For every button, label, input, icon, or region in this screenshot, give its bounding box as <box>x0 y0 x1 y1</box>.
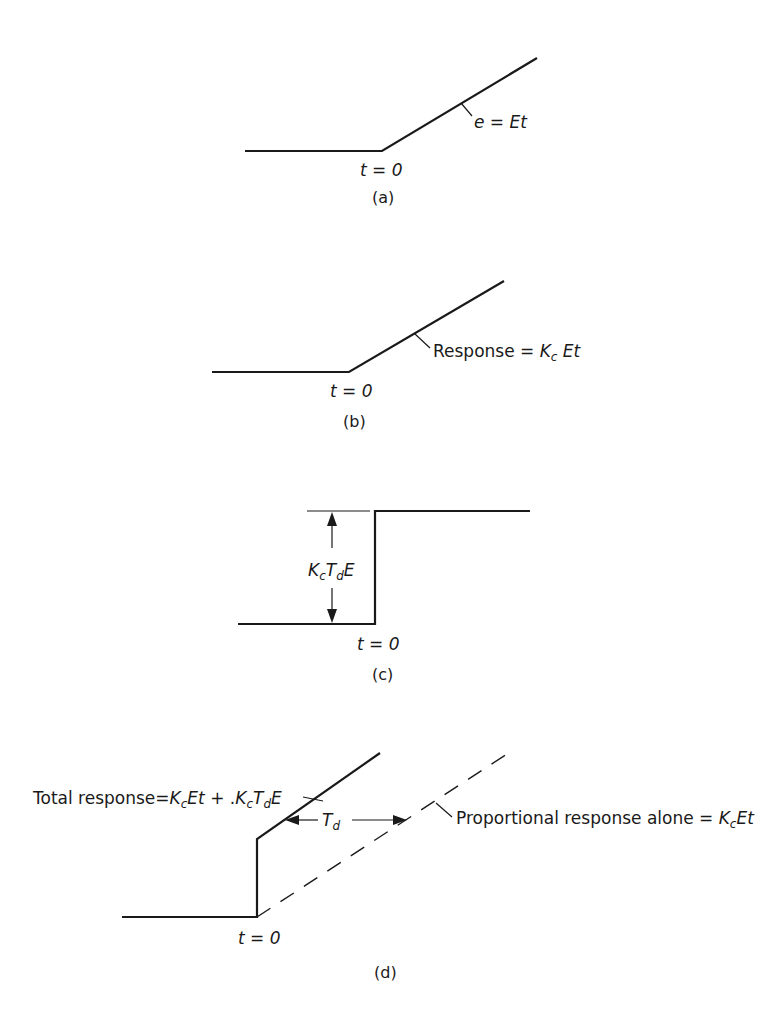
label-leader <box>415 334 430 348</box>
panel-a: e = Et t = 0 (a) <box>245 58 537 207</box>
label-proportional-response-alone: Proportional response alone = KcEt <box>456 808 755 831</box>
caption-c: (c) <box>372 665 393 684</box>
label-e-equals-et: e = Et <box>474 112 528 132</box>
arrow-up-icon <box>327 512 337 526</box>
label-leader <box>461 103 472 116</box>
caption-d: (d) <box>374 963 397 982</box>
time-zero-label: t = 0 <box>360 160 403 180</box>
pd-control-response-diagram: e = Et t = 0 (a) Response = Kc Et t = 0 … <box>0 0 780 1010</box>
proportional-response-dashed <box>257 752 510 917</box>
time-zero-label: t = 0 <box>357 634 400 654</box>
caption-b: (b) <box>343 412 366 431</box>
arrow-left-icon <box>285 815 299 825</box>
prop-label-leader <box>436 803 452 817</box>
label-response-kc-et: Response = Kc Et <box>433 341 582 364</box>
panel-d: Total response=KcEt + .KcTdE Td Proporti… <box>32 752 755 982</box>
total-response-curve <box>122 753 380 917</box>
ramp-input-curve <box>245 58 537 151</box>
time-zero-label: t = 0 <box>330 381 373 401</box>
arrow-down-icon <box>327 609 337 623</box>
panel-b: Response = Kc Et t = 0 (b) <box>212 281 582 431</box>
derivative-step-curve <box>238 511 530 624</box>
label-kc-td-e: KcTdE <box>308 560 355 583</box>
panel-c: KcTdE t = 0 (c) <box>238 511 530 684</box>
time-zero-label: t = 0 <box>238 928 281 948</box>
label-td: Td <box>322 810 340 833</box>
caption-a: (a) <box>372 188 394 207</box>
label-total-response: Total response=KcEt + .KcTdE <box>32 788 282 811</box>
